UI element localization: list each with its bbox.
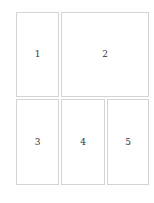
panel-2-label: 2: [102, 50, 108, 59]
panel-3-label: 3: [35, 138, 41, 147]
panel-5-label: 5: [125, 138, 131, 147]
panel-2: 2: [61, 12, 149, 97]
panel-3: 3: [16, 99, 59, 185]
panel-1: 1: [16, 12, 59, 97]
panel-4: 4: [61, 99, 105, 185]
panel-5: 5: [107, 99, 149, 185]
panel-4-label: 4: [80, 138, 86, 147]
panel-1-label: 1: [35, 50, 41, 59]
